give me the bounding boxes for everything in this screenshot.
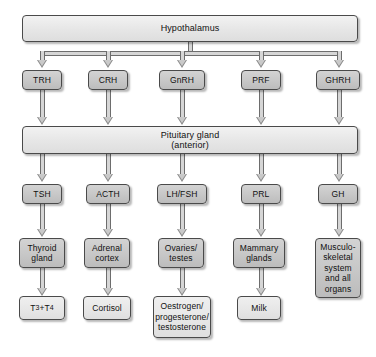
- connector-lhfsh-to-gonads: [180, 204, 185, 230]
- arrow-ghrh-to-pituitary: [334, 117, 344, 125]
- arrow-mammary-to-milk: [256, 288, 266, 296]
- connector-tsh-to-thyroid: [40, 204, 45, 230]
- arrow-adrenal-to-cortisol: [103, 288, 113, 296]
- arrow-bus-to-trh: [37, 60, 47, 68]
- node-target-organ-ovaries-testes: Ovaries/ testes: [158, 238, 204, 268]
- node-target-organ-adrenal-cortex: Adrenal cortex: [84, 238, 130, 268]
- node-releasing-hormone-prf: PRF: [241, 70, 281, 90]
- node-releasing-hormone-gnrh: GnRH: [159, 70, 205, 90]
- arrow-bus-to-ghrh: [334, 60, 344, 68]
- connector-ghrh-to-pituitary: [337, 90, 342, 118]
- node-releasing-hormone-crh: CRH: [88, 70, 128, 90]
- arrow-bus-to-crh: [103, 60, 113, 68]
- node-releasing-hormone-ghrh: GHRH: [316, 70, 360, 90]
- connector-trh-to-pituitary: [40, 90, 45, 118]
- node-target-organ-musculoskeletal: Musculo- skeletal system and all organs: [315, 238, 361, 298]
- node-pituitary-hormone-prl: PRL: [241, 184, 281, 204]
- arrow-prf-to-pituitary: [256, 117, 266, 125]
- connector-gnrh-to-pituitary: [180, 90, 185, 118]
- node-pituitary-hormone-tsh: TSH: [22, 184, 62, 204]
- arrow-tsh-to-thyroid: [37, 229, 47, 237]
- connector-crh-to-pituitary: [106, 90, 111, 118]
- connector-gh-to-musculoskeletal: [337, 204, 342, 230]
- arrow-acth-to-adrenal: [103, 229, 113, 237]
- arrow-crh-to-pituitary: [103, 117, 113, 125]
- arrow-pituitary-to-tsh: [37, 174, 47, 182]
- arrow-pituitary-to-acth: [103, 174, 113, 182]
- node-pituitary-hormone-acth: ACTH: [86, 184, 130, 204]
- node-target-organ-thyroid-gland: Thyroid gland: [19, 238, 65, 268]
- arrow-trh-to-pituitary: [37, 117, 47, 125]
- node-pituitary-gland: Pituitary gland (anterior): [22, 126, 358, 154]
- node-pituitary-hormone-lhfsh: LH/FSH: [157, 184, 207, 204]
- arrow-pituitary-to-gh: [334, 174, 344, 182]
- node-product-t3-t4: T3+T4: [19, 296, 65, 320]
- arrow-pituitary-to-prl: [256, 174, 266, 182]
- connector-hypothalamus-bus: [40, 51, 340, 56]
- node-hypothalamus: Hypothalamus: [22, 15, 358, 42]
- arrow-bus-to-gnrh: [177, 60, 187, 68]
- node-product-milk: Milk: [237, 296, 281, 320]
- diagram-canvas: Hypothalamus TRH CRH GnRH PRF GHRH Pitui…: [0, 0, 376, 357]
- connector-prf-to-pituitary: [259, 90, 264, 118]
- connector-acth-to-adrenal: [106, 204, 111, 230]
- node-target-organ-mammary-glands: Mammary glands: [233, 238, 285, 268]
- arrow-lhfsh-to-gonads: [177, 229, 187, 237]
- node-releasing-hormone-trh: TRH: [22, 70, 62, 90]
- node-product-cortisol: Cortisol: [83, 296, 131, 320]
- arrow-bus-to-prf: [256, 60, 266, 68]
- connector-prl-to-mammary: [259, 204, 264, 230]
- connector-pituitary-to-prl: [259, 154, 264, 176]
- node-product-sex-hormones: Oestrogen/progesterone/testosterone: [153, 296, 211, 338]
- connector-pituitary-to-lhfsh: [180, 154, 185, 176]
- connector-pituitary-to-gh: [337, 154, 342, 176]
- arrow-prl-to-mammary: [256, 229, 266, 237]
- arrow-gh-to-musculoskeletal: [334, 229, 344, 237]
- connector-pituitary-to-acth: [106, 154, 111, 176]
- node-pituitary-hormone-gh: GH: [318, 184, 358, 204]
- arrow-gnrh-to-pituitary: [177, 117, 187, 125]
- arrow-thyroid-to-t3t4: [37, 288, 47, 296]
- arrow-pituitary-to-lhfsh: [177, 174, 187, 182]
- arrow-gonads-to-sexhormones: [177, 288, 187, 296]
- connector-pituitary-to-tsh: [40, 154, 45, 176]
